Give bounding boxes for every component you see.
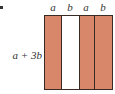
strip-label-b-1: b: [62, 1, 78, 13]
strip-b-2: [94, 16, 112, 89]
strip-label-b-2: b: [95, 1, 111, 13]
strip-a-1: [45, 16, 61, 89]
strip-label-a-1: a: [46, 1, 60, 13]
strip-a-2: [79, 16, 94, 89]
list-marker: [0, 6, 3, 9]
strip-b-1: [61, 16, 79, 89]
side-length-label: a + 3b: [2, 49, 42, 61]
area-model-rectangle: [44, 15, 113, 90]
strip-label-a-2: a: [79, 1, 93, 13]
